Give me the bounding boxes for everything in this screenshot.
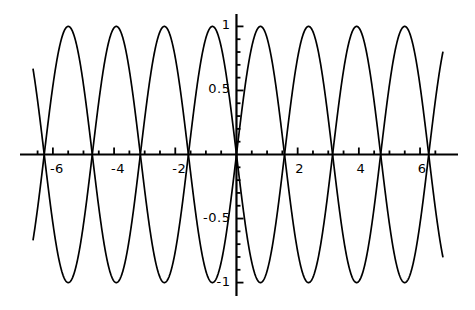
x-axis-tick-label: 2 (295, 161, 304, 176)
y-axis-tick-label: 1 (222, 17, 231, 32)
x-axis-tick-label: -4 (111, 161, 125, 176)
chart-svg (0, 0, 475, 310)
x-axis-tick-label: -2 (172, 161, 186, 176)
plot-canvas: -6-4-224610.5-0.5-1 (0, 0, 475, 310)
x-axis-tick-label: 4 (356, 161, 365, 176)
y-axis-tick-label: -1 (217, 274, 231, 289)
x-axis-tick-label: -6 (50, 161, 64, 176)
axes-group (20, 14, 458, 296)
y-axis-tick-label: 0.5 (208, 81, 230, 96)
x-axis-tick-label: 6 (418, 161, 427, 176)
y-axis-tick-label: -0.5 (203, 210, 230, 225)
